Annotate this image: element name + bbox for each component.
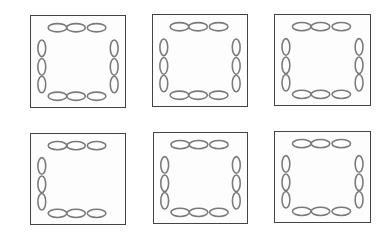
top-ellipse: [210, 141, 229, 149]
left-ellipse: [160, 58, 168, 75]
left-ellipse: [282, 74, 290, 91]
bottom-ellipse: [210, 208, 229, 216]
left-ellipse: [38, 158, 46, 175]
top-ellipse: [209, 23, 228, 31]
top-ellipse: [332, 140, 351, 148]
left-ellipse: [160, 39, 168, 56]
right-ellipse: [232, 58, 240, 75]
top-ellipse: [189, 141, 208, 149]
top-ellipse: [311, 23, 330, 31]
top-ellipse: [332, 23, 351, 31]
panel-5: [153, 132, 248, 224]
top-ellipse: [189, 23, 208, 31]
bottom-ellipse: [67, 92, 86, 100]
right-ellipse: [355, 156, 363, 173]
left-ellipse: [282, 57, 290, 74]
left-ellipse: [161, 157, 169, 174]
panel-2: [152, 14, 248, 107]
top-ellipse: [48, 24, 67, 32]
top-ellipse: [292, 140, 311, 148]
bottom-ellipse: [48, 92, 67, 100]
top-ellipse: [67, 142, 86, 150]
top-ellipse: [170, 23, 189, 31]
bottom-ellipse: [87, 209, 106, 217]
right-ellipse: [110, 76, 118, 93]
right-ellipse: [355, 74, 363, 91]
right-ellipse: [232, 75, 240, 92]
bottom-ellipse: [48, 209, 67, 217]
left-ellipse: [38, 193, 46, 210]
right-ellipse: [110, 59, 118, 76]
bottom-ellipse: [292, 90, 311, 98]
bottom-ellipse: [67, 209, 86, 217]
bottom-ellipse: [311, 207, 330, 215]
right-ellipse: [355, 174, 363, 191]
bottom-ellipse: [189, 208, 208, 216]
right-ellipse: [232, 175, 240, 192]
left-ellipse: [160, 75, 168, 92]
right-ellipse: [110, 40, 118, 57]
right-ellipse: [232, 157, 240, 174]
left-ellipse: [282, 174, 290, 191]
right-ellipse: [355, 39, 363, 56]
left-ellipse: [38, 59, 46, 76]
top-ellipse: [48, 142, 67, 150]
left-ellipse: [161, 192, 169, 209]
panel-1: [30, 15, 126, 108]
top-ellipse: [311, 140, 330, 148]
bottom-ellipse: [87, 92, 106, 100]
top-ellipse: [171, 141, 190, 149]
bottom-ellipse: [171, 208, 190, 216]
bottom-ellipse: [292, 207, 311, 215]
left-ellipse: [161, 175, 169, 192]
left-ellipse: [38, 40, 46, 57]
right-ellipse: [355, 57, 363, 74]
bottom-ellipse: [332, 207, 351, 215]
bottom-ellipse: [209, 91, 228, 99]
left-ellipse: [282, 156, 290, 173]
panel-3: [274, 14, 371, 106]
left-ellipse: [282, 39, 290, 56]
top-ellipse: [87, 142, 106, 150]
right-ellipse: [355, 191, 363, 208]
left-ellipse: [38, 176, 46, 193]
left-ellipse: [38, 76, 46, 93]
bottom-ellipse: [189, 91, 208, 99]
top-ellipse: [67, 24, 86, 32]
bottom-ellipse: [332, 90, 351, 98]
left-ellipse: [282, 191, 290, 208]
bottom-ellipse: [311, 90, 330, 98]
right-ellipse: [232, 39, 240, 56]
bottom-ellipse: [170, 91, 189, 99]
right-ellipse: [232, 192, 240, 209]
top-ellipse: [87, 24, 106, 32]
top-ellipse: [292, 23, 311, 31]
panel-6: [274, 131, 371, 223]
panel-4: [30, 133, 126, 225]
